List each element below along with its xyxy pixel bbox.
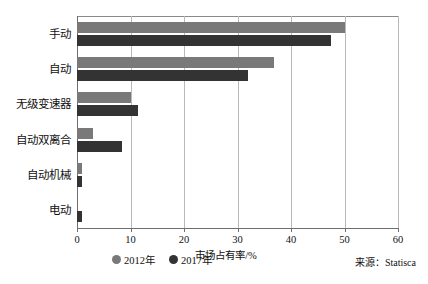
bar-1-series-1[interactable]	[77, 70, 248, 81]
bar-3-series-1[interactable]	[77, 141, 122, 152]
x-tick-mark-30	[238, 228, 239, 232]
bar-chart-figure: 市场占有率/% 2012年 2017年 来源：Statisca 01020304…	[0, 0, 428, 284]
chart-legend: 2012年 2017年	[112, 252, 212, 267]
category-label-2: 无级变速器	[0, 98, 71, 110]
x-tick-label-50: 50	[325, 234, 365, 245]
source-note: 来源：Statisca	[355, 254, 416, 269]
x-tick-mark-40	[291, 228, 292, 232]
bar-4-series-0[interactable]	[77, 163, 82, 174]
gridline-20	[184, 16, 185, 228]
gridline-30	[238, 16, 239, 228]
bar-0-series-1[interactable]	[77, 35, 331, 46]
category-label-1: 自动	[0, 63, 71, 75]
bar-2-series-0[interactable]	[77, 92, 131, 103]
category-label-5: 电动	[0, 204, 71, 216]
legend-item-2017[interactable]: 2017年	[169, 252, 212, 267]
bar-0-series-0[interactable]	[77, 22, 345, 33]
gridline-40	[291, 16, 292, 228]
gridline-0	[77, 16, 78, 228]
category-label-3: 自动双离合	[0, 134, 71, 146]
x-tick-mark-10	[131, 228, 132, 232]
bar-1-series-0[interactable]	[77, 57, 274, 68]
bar-4-series-1[interactable]	[77, 176, 82, 187]
legend-swatch-2017	[169, 255, 178, 264]
x-tick-mark-20	[184, 228, 185, 232]
gridline-10	[131, 16, 132, 228]
category-label-0: 手动	[0, 28, 71, 40]
x-tick-label-10: 10	[111, 234, 151, 245]
x-tick-mark-50	[345, 228, 346, 232]
legend-label-2012: 2012年	[124, 252, 155, 267]
category-label-4: 自动机械	[0, 169, 71, 181]
x-tick-label-60: 60	[378, 234, 418, 245]
bar-3-series-0[interactable]	[77, 128, 93, 139]
bar-5-series-1[interactable]	[77, 211, 82, 222]
x-tick-mark-0	[77, 228, 78, 232]
bar-2-series-1[interactable]	[77, 105, 138, 116]
x-tick-label-30: 30	[218, 234, 258, 245]
legend-label-2017: 2017年	[181, 252, 212, 267]
gridline-50	[345, 16, 346, 228]
plot-area	[77, 16, 398, 228]
legend-item-2012[interactable]: 2012年	[112, 252, 155, 267]
legend-swatch-2012	[112, 255, 121, 264]
x-tick-label-20: 20	[164, 234, 204, 245]
x-tick-label-0: 0	[57, 234, 97, 245]
x-tick-label-40: 40	[271, 234, 311, 245]
gridline-60	[398, 16, 399, 228]
x-tick-mark-60	[398, 228, 399, 232]
